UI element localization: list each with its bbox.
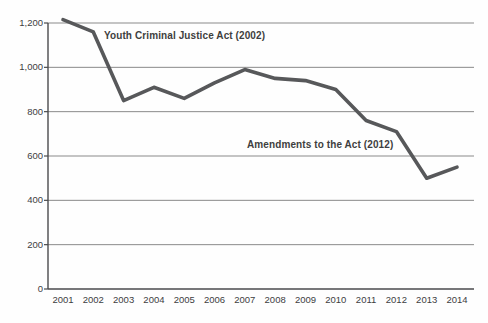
- y-axis-label: 1,000: [3, 61, 43, 73]
- data-series-line: [63, 20, 457, 179]
- x-axis-label: 2010: [320, 294, 352, 306]
- x-axis-label: 2006: [199, 294, 231, 306]
- x-axis-label: 2007: [229, 294, 261, 306]
- y-axis-label: 800: [3, 106, 43, 118]
- x-axis-label: 2002: [77, 294, 109, 306]
- y-axis-label: 1,200: [3, 17, 43, 29]
- y-axis-label: 0: [3, 283, 43, 295]
- chart-canvas: [0, 0, 488, 323]
- x-axis-label: 2001: [47, 294, 79, 306]
- x-axis-label: 2012: [380, 294, 412, 306]
- line-chart: 02004006008001,0001,20020012002200320042…: [0, 0, 488, 323]
- x-axis-label: 2008: [259, 294, 291, 306]
- annotation-youth-criminal-justice-act: Youth Criminal Justice Act (2002): [104, 30, 265, 41]
- y-axis-label: 600: [3, 150, 43, 162]
- x-axis-label: 2004: [138, 294, 170, 306]
- annotation-amendments-to-act: Amendments to the Act (2012): [247, 139, 393, 150]
- y-axis-label: 400: [3, 194, 43, 206]
- x-axis-label: 2005: [168, 294, 200, 306]
- x-axis-label: 2014: [441, 294, 473, 306]
- y-axis-label: 200: [3, 239, 43, 251]
- x-axis-label: 2003: [108, 294, 140, 306]
- x-axis-label: 2013: [411, 294, 443, 306]
- x-axis-label: 2011: [350, 294, 382, 306]
- x-axis-label: 2009: [289, 294, 321, 306]
